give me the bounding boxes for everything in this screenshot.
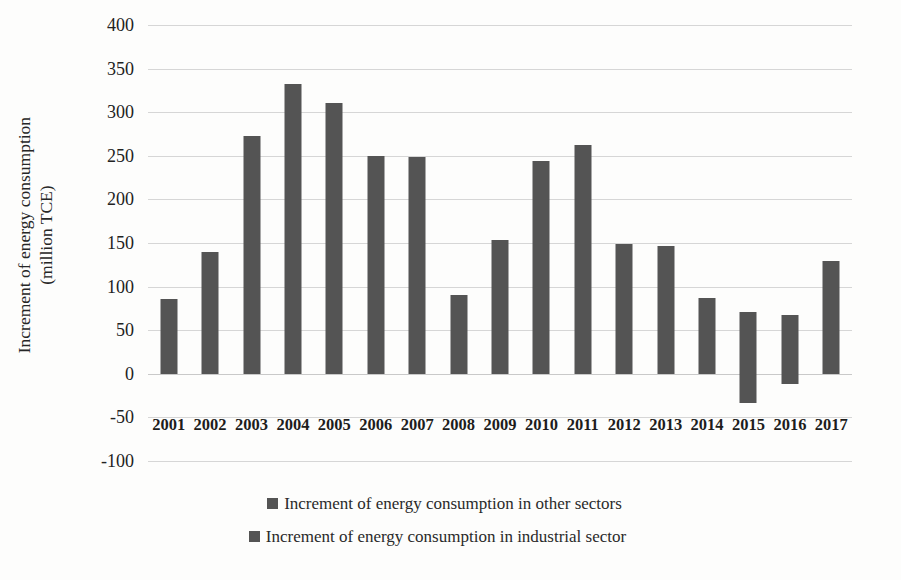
x-axis-tick-label: 2011 bbox=[567, 415, 599, 435]
y-axis-tick-label: 300 bbox=[107, 103, 134, 121]
bar-series-group bbox=[148, 25, 852, 461]
x-axis-tick-label: 2010 bbox=[525, 415, 558, 435]
x-axis-tick-label: 2001 bbox=[152, 415, 185, 435]
bar-other-sectors[interactable] bbox=[409, 157, 426, 374]
x-axis-tick-label: 2017 bbox=[815, 415, 848, 435]
y-axis-title: Increment of energy consumption (million… bbox=[0, 0, 70, 470]
bar-group[interactable] bbox=[438, 25, 479, 461]
y-axis-tick-label: 150 bbox=[107, 234, 134, 252]
plot-area bbox=[148, 25, 852, 461]
bar-other-sectors[interactable] bbox=[657, 246, 674, 373]
bar-other-sectors[interactable] bbox=[326, 103, 343, 373]
bar-other-sectors[interactable] bbox=[781, 315, 798, 373]
bar-other-sectors[interactable] bbox=[823, 261, 840, 373]
bar-other-sectors[interactable] bbox=[243, 136, 260, 374]
bar-group[interactable] bbox=[272, 25, 313, 461]
y-axis-tick-label: 100 bbox=[107, 278, 134, 296]
legend-row: Increment of energy consumption in other… bbox=[0, 487, 901, 520]
y-axis-tick-label: 250 bbox=[107, 147, 134, 165]
y-axis-tick-labels: 400350300250200150100500-50-100 bbox=[70, 0, 144, 470]
bar-other-sectors[interactable] bbox=[740, 312, 757, 374]
x-axis-tick-label: 2006 bbox=[359, 415, 392, 435]
bar-group[interactable] bbox=[479, 25, 520, 461]
bar-group[interactable] bbox=[769, 25, 810, 461]
bar-other-sectors[interactable] bbox=[699, 298, 716, 374]
y-axis-tick-label: 0 bbox=[125, 365, 134, 383]
bar-other-sectors[interactable] bbox=[574, 145, 591, 373]
bar-other-sectors[interactable] bbox=[533, 161, 550, 374]
bar-group[interactable] bbox=[728, 25, 769, 461]
x-axis-tick-label: 2005 bbox=[318, 415, 351, 435]
x-axis-tick-label: 2014 bbox=[691, 415, 724, 435]
x-axis-tick-label: 2008 bbox=[442, 415, 475, 435]
y-axis-tick-label: -50 bbox=[110, 408, 134, 426]
x-axis-tick-label: 2016 bbox=[773, 415, 806, 435]
bar-chart: Increment of energy consumption (million… bbox=[0, 0, 901, 580]
x-axis-tick-labels: 2001200220032004200520062007200820092010… bbox=[148, 415, 852, 441]
bar-group[interactable] bbox=[645, 25, 686, 461]
legend-swatch-other-sectors bbox=[267, 498, 278, 509]
bar-group[interactable] bbox=[148, 25, 189, 461]
bar-industrial-sector[interactable] bbox=[740, 374, 757, 403]
bar-other-sectors[interactable] bbox=[616, 244, 633, 374]
legend-row: Increment of energy consumption in indus… bbox=[0, 520, 901, 553]
x-axis-tick-label: 2012 bbox=[608, 415, 641, 435]
y-axis-tick-label: 350 bbox=[107, 60, 134, 78]
y-axis-title-line-2: (million TCE) bbox=[35, 117, 57, 353]
y-axis-tick-label: 200 bbox=[107, 190, 134, 208]
bar-other-sectors[interactable] bbox=[202, 252, 219, 374]
bar-other-sectors[interactable] bbox=[450, 295, 467, 373]
x-axis-tick-label: 2004 bbox=[276, 415, 309, 435]
bar-group[interactable] bbox=[355, 25, 396, 461]
bar-group[interactable] bbox=[189, 25, 230, 461]
bar-group[interactable] bbox=[231, 25, 272, 461]
x-axis-tick-label: 2007 bbox=[401, 415, 434, 435]
gridline bbox=[148, 461, 852, 462]
y-axis-tick-label: 50 bbox=[116, 321, 134, 339]
x-axis-tick-label: 2015 bbox=[732, 415, 765, 435]
x-axis-tick-label: 2013 bbox=[649, 415, 682, 435]
legend-label-other-sectors: Increment of energy consumption in other… bbox=[284, 494, 622, 514]
x-axis-tick-label: 2003 bbox=[235, 415, 268, 435]
bar-industrial-sector[interactable] bbox=[781, 374, 798, 384]
bar-other-sectors[interactable] bbox=[160, 299, 177, 374]
bar-group[interactable] bbox=[521, 25, 562, 461]
bar-other-sectors[interactable] bbox=[284, 84, 301, 374]
bar-group[interactable] bbox=[562, 25, 603, 461]
legend-swatch-industrial-sector bbox=[249, 531, 260, 542]
bar-group[interactable] bbox=[314, 25, 355, 461]
bar-group[interactable] bbox=[604, 25, 645, 461]
y-axis-tick-label: 400 bbox=[107, 16, 134, 34]
chart-legend: Increment of energy consumption in other… bbox=[0, 487, 901, 553]
x-axis-tick-label: 2002 bbox=[194, 415, 227, 435]
legend-label-industrial-sector: Increment of energy consumption in indus… bbox=[266, 527, 626, 547]
bar-group[interactable] bbox=[811, 25, 852, 461]
bar-other-sectors[interactable] bbox=[491, 240, 508, 374]
y-axis-tick-label: -100 bbox=[101, 452, 134, 470]
y-axis-title-line-1: Increment of energy consumption bbox=[13, 117, 35, 353]
bar-other-sectors[interactable] bbox=[367, 156, 384, 374]
bar-group[interactable] bbox=[686, 25, 727, 461]
bar-group[interactable] bbox=[396, 25, 437, 461]
x-axis-tick-label: 2009 bbox=[484, 415, 517, 435]
